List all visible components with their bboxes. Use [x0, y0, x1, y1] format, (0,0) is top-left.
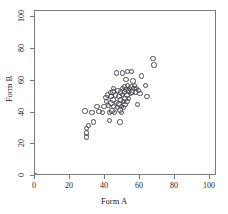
y-axis-tick — [30, 143, 34, 144]
y-axis-tick — [30, 175, 34, 176]
data-point — [150, 56, 155, 61]
x-axis-tick-label: 100 — [203, 181, 215, 190]
y-axis-tick-label: 20 — [17, 136, 26, 150]
data-points-layer — [35, 11, 215, 174]
data-point — [117, 119, 122, 124]
x-axis-title: Form A — [0, 196, 228, 206]
data-point — [151, 62, 156, 67]
data-point — [123, 77, 128, 82]
data-point — [101, 104, 106, 109]
data-point — [143, 83, 148, 88]
y-axis-tick-label: 100 — [17, 9, 26, 23]
data-point — [35, 173, 38, 174]
y-axis-tick — [30, 80, 34, 81]
data-point — [91, 119, 96, 124]
x-axis-tick — [34, 175, 35, 179]
data-point — [137, 91, 142, 96]
data-point — [84, 134, 89, 139]
y-axis-tick-label: 0 — [17, 168, 26, 182]
x-axis-tick — [209, 175, 210, 179]
x-axis-tick — [69, 175, 70, 179]
x-axis-tick-label: 80 — [170, 181, 178, 190]
data-point — [82, 108, 87, 113]
x-axis-tick-label: 60 — [135, 181, 143, 190]
data-point — [144, 94, 149, 99]
y-axis-tick-label: 60 — [17, 73, 26, 87]
y-axis-tick-label: 40 — [17, 105, 26, 119]
scatter-plot-figure: 020406080100 020406080100 Form A Form B — [0, 0, 228, 214]
data-point — [114, 70, 119, 75]
x-axis-tick — [139, 175, 140, 179]
data-point — [94, 104, 99, 109]
y-axis-tick — [30, 48, 34, 49]
y-axis-tick — [30, 16, 34, 17]
data-point — [139, 73, 144, 78]
y-axis-tick-label: 80 — [17, 41, 26, 55]
y-axis-tick — [30, 112, 34, 113]
data-point — [135, 102, 140, 107]
x-axis-tick-label: 0 — [32, 181, 36, 190]
data-point — [120, 70, 125, 75]
data-point — [100, 110, 105, 115]
data-point — [129, 69, 134, 74]
y-axis-title: Form B — [4, 54, 14, 124]
data-point — [107, 118, 112, 123]
plot-frame — [34, 10, 216, 175]
x-axis-tick — [104, 175, 105, 179]
x-axis-tick-label: 20 — [65, 181, 73, 190]
data-point — [126, 96, 131, 101]
x-axis-tick-label: 40 — [100, 181, 108, 190]
data-point — [89, 110, 94, 115]
data-point — [119, 110, 124, 115]
x-axis-tick — [174, 175, 175, 179]
